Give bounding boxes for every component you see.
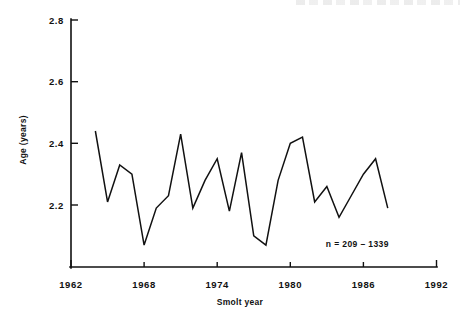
- y-tick-label-2-6: 2.6: [49, 76, 64, 87]
- y-tick-label-2-2: 2.2: [49, 200, 64, 211]
- x-tick-label-1968: 1968: [132, 279, 156, 290]
- sample-size-note: n = 209 – 1339: [326, 239, 389, 249]
- scan-artifact-band: [296, 0, 460, 5]
- x-tick-label-1992: 1992: [425, 279, 449, 290]
- y-tick-label-2-4: 2.4: [49, 138, 64, 149]
- x-axis-title: Smolt year: [217, 297, 264, 307]
- line-chart-canvas: 2.8 2.6 2.4 2.2 Age (years) 1962 1968 19…: [0, 0, 460, 316]
- x-tick-label-1986: 1986: [352, 279, 376, 290]
- chart-figure: 2.8 2.6 2.4 2.2 Age (years) 1962 1968 19…: [0, 0, 460, 316]
- series-group: [95, 131, 387, 245]
- x-axis-group: 1962 1968 1974 1980 1986 1992 Smolt year: [59, 260, 448, 307]
- y-axis-title: Age (years): [18, 115, 28, 165]
- annotation-group: n = 209 – 1339: [326, 239, 389, 249]
- y-axis-group: 2.8 2.6 2.4 2.2 Age (years): [18, 15, 78, 269]
- y-tick-label-2-8: 2.8: [49, 15, 64, 26]
- series-line-mean-smolt-age: [95, 131, 387, 245]
- x-tick-label-1980: 1980: [279, 279, 303, 290]
- x-tick-label-1962: 1962: [59, 279, 83, 290]
- x-tick-label-1974: 1974: [205, 279, 229, 290]
